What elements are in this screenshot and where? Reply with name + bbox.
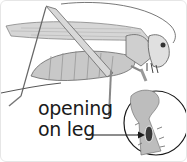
abdomen	[31, 51, 135, 80]
hind-tarsus	[9, 96, 21, 106]
head	[148, 35, 169, 67]
illustration-frame: opening on leg	[0, 0, 187, 162]
caption-line-2: on leg	[38, 119, 95, 139]
leg-opening	[145, 126, 153, 142]
front-leg	[141, 69, 146, 81]
hind-tibia	[21, 7, 46, 96]
caption-line-1: opening	[38, 98, 113, 118]
eye	[161, 43, 166, 48]
